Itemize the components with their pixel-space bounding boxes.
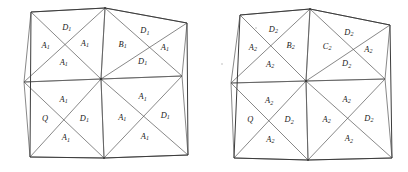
right-mesh-bottom-left-quadrant: A2QD2A2 xyxy=(231,81,308,160)
cell-label-D2: D2 xyxy=(343,28,353,38)
quadrant-diagonal xyxy=(104,76,182,158)
left-mesh-bottom-left-quadrant: A1QD1A1 xyxy=(24,79,104,158)
cell-label-D2: D2 xyxy=(341,59,351,69)
left-mesh: D1A1A1A1D1B1A1D1A1QD1A1A1A1D1A1 xyxy=(24,7,188,159)
left-mesh-bottom-right-quadrant: A1A1D1A1 xyxy=(101,76,188,158)
cell-label-A2: A2 xyxy=(265,60,274,70)
cell-label-D2: D2 xyxy=(284,115,294,125)
cell-label-A2: A2 xyxy=(344,134,353,144)
quadrant-boundary xyxy=(306,9,390,81)
cell-label-A1: A1 xyxy=(59,58,68,68)
cell-label-Q: Q xyxy=(42,114,48,123)
quadrant-diagonal xyxy=(234,81,306,158)
cell-label-B1: B1 xyxy=(119,40,127,50)
left-mesh-top-right-quadrant: D1B1A1D1 xyxy=(101,8,187,79)
quadrant-boundary xyxy=(101,8,187,79)
cell-label-A2: A2 xyxy=(265,135,274,145)
mesh-vertex-dot xyxy=(305,80,308,83)
scan-speck xyxy=(255,27,257,29)
cell-label-A2: A2 xyxy=(363,45,372,55)
cell-label-D1: D1 xyxy=(137,57,147,67)
mesh-vertex-dot xyxy=(104,7,106,9)
cell-label-A2: A2 xyxy=(264,96,273,106)
cell-label-A1: A1 xyxy=(117,113,126,123)
cell-label-B2: B2 xyxy=(287,41,295,51)
cell-label-A1: A1 xyxy=(140,132,149,142)
left-mesh-top-left-quadrant: D1A1A1A1 xyxy=(24,8,105,82)
cell-label-A2: A2 xyxy=(322,115,331,125)
triangulated-mesh-pair-figure: D1A1A1A1D1B1A1D1A1QD1A1A1A1D1A1D2A2B2A2D… xyxy=(0,0,408,172)
quadrant-diagonal xyxy=(101,79,188,155)
cell-label-A1: A1 xyxy=(59,95,68,105)
cell-label-C2: C2 xyxy=(323,42,332,52)
cell-label-A1: A1 xyxy=(61,133,70,143)
mesh-vertex-dot xyxy=(307,159,309,161)
cell-label-A1: A1 xyxy=(160,43,169,53)
cell-label-A1: A1 xyxy=(138,92,147,102)
cell-label-A1: A1 xyxy=(41,41,50,51)
cell-label-D2: D2 xyxy=(363,114,373,124)
cell-label-D1: D1 xyxy=(160,111,170,121)
quadrant-diagonal xyxy=(308,79,385,160)
right-mesh-top-right-quadrant: D2C2A2D2 xyxy=(306,9,390,81)
scan-speck xyxy=(221,63,223,65)
mesh-vertex-dot xyxy=(309,8,311,10)
cell-label-D1: D1 xyxy=(139,26,149,36)
mesh-outline xyxy=(30,8,188,158)
cell-label-Q: Q xyxy=(247,115,253,124)
quadrant-diagonal xyxy=(306,81,392,158)
right-mesh: D2A2B2A2D2C2A2D2A2QD2A2A2A2D2A2 xyxy=(231,8,392,161)
mesh-vertex-dot xyxy=(103,157,105,159)
cell-label-D1: D1 xyxy=(79,114,89,124)
quadrant-diagonal xyxy=(231,9,310,83)
cell-label-A1: A1 xyxy=(80,39,89,49)
cell-label-A2: A2 xyxy=(342,95,351,105)
figure-canvas: D1A1A1A1D1B1A1D1A1QD1A1A1A1D1A1D2A2B2A2D… xyxy=(0,0,408,172)
mesh-vertex-dot xyxy=(100,78,103,81)
right-mesh-bottom-right-quadrant: A2A2D2A2 xyxy=(306,79,392,160)
right-mesh-top-left-quadrant: D2A2B2A2 xyxy=(231,9,310,83)
cell-label-A2: A2 xyxy=(248,43,257,53)
cell-label-D1: D1 xyxy=(61,23,71,33)
mesh-outline xyxy=(234,9,392,160)
cell-label-D2: D2 xyxy=(268,25,278,35)
